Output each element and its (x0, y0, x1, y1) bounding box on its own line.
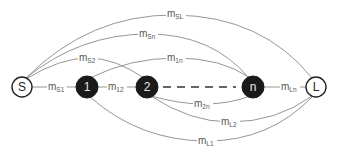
label-m-S2: mS2 (78, 52, 98, 64)
label-m-Sn: mSn (138, 28, 158, 40)
node-n: n (242, 76, 264, 98)
node-2: 2 (136, 76, 158, 98)
label-m-L2: mL2 (220, 116, 240, 128)
svg-text:S: S (18, 80, 26, 94)
label-m-L1: mL1 (197, 135, 217, 147)
label-m-Ln: mLn (280, 81, 300, 93)
node-S: S (12, 77, 32, 97)
edge-S-L (26, 15, 312, 78)
label-m-12: m12 (107, 81, 127, 93)
label-m-S1: mS1 (47, 81, 67, 93)
label-m-SL: mSL (166, 8, 186, 20)
svg-text:1: 1 (84, 80, 91, 94)
label-m-2n: m2n (193, 98, 213, 110)
network-diagram: mSL mSn mS2 m1n mS1 m12 mLn m2n mL2 mL1 … (0, 0, 340, 154)
node-1: 1 (76, 76, 98, 98)
svg-text:2: 2 (144, 80, 151, 94)
node-L: L (306, 77, 326, 97)
label-m-1n: m1n (166, 52, 186, 64)
svg-text:n: n (250, 80, 257, 94)
svg-text:L: L (313, 80, 320, 94)
edge-S-n (26, 34, 249, 78)
